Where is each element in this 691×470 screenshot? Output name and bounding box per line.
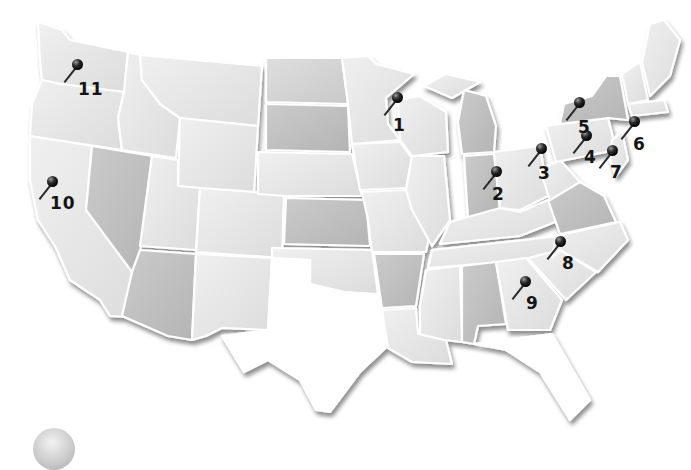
state-arkansas — [374, 254, 424, 308]
pin-label: 7 — [610, 164, 623, 181]
state-south-dakota — [266, 104, 350, 152]
state-new-york — [560, 76, 628, 124]
state-kansas — [284, 198, 370, 246]
pushpin-icon — [629, 116, 640, 127]
pin-label: 4 — [584, 149, 597, 166]
pushpin-icon — [536, 143, 547, 154]
pushpin-icon — [72, 59, 83, 70]
pin-label: 9 — [526, 295, 539, 312]
state-florida — [474, 334, 590, 420]
pin-label: 8 — [562, 255, 575, 272]
pushpin-icon — [555, 236, 566, 247]
state-wyoming — [178, 118, 258, 194]
pin-label: 10 — [50, 195, 76, 212]
state-north-dakota — [266, 58, 348, 104]
pin-label: 6 — [633, 136, 646, 153]
state-michigan — [458, 90, 496, 154]
pin-label: 3 — [538, 165, 551, 182]
state-nebraska — [258, 152, 362, 196]
pushpin-icon — [47, 176, 58, 187]
state-iowa — [352, 142, 412, 190]
pin-label: 2 — [492, 186, 505, 203]
pin-label: 11 — [78, 81, 104, 98]
pushpin-icon — [574, 97, 585, 108]
pushpin-icon — [607, 145, 618, 156]
pin-label: 5 — [578, 119, 591, 136]
state-new-mexico — [192, 254, 272, 340]
pushpin-icon — [491, 166, 502, 177]
state-maine — [642, 20, 680, 96]
pin-label: 1 — [393, 117, 406, 134]
state-massachusetts — [628, 100, 668, 116]
pushpin-icon — [520, 276, 531, 287]
pushpin-icon — [392, 92, 403, 103]
corner-decoration — [33, 428, 75, 470]
state-mississippi — [420, 266, 462, 342]
state-colorado — [196, 188, 284, 258]
